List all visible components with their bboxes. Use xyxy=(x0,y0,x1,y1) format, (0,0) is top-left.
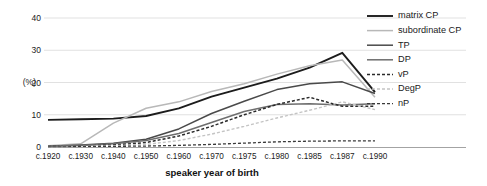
x-tick-label: c.1975 xyxy=(232,152,257,161)
x-tick-label: c.1970 xyxy=(199,152,224,161)
legend-label-np: nP xyxy=(398,98,409,108)
x-tick-label: c.1920 xyxy=(36,152,61,161)
x-tick-label: c.1985 xyxy=(297,152,322,161)
series-line-degp xyxy=(48,102,375,147)
x-tick-label: c.1960 xyxy=(167,152,192,161)
y-axis-unit-label: (%) xyxy=(23,77,36,87)
series-line-subordinate-cp xyxy=(48,60,375,146)
legend-label-dp: DP xyxy=(398,54,411,64)
series-group xyxy=(48,53,375,147)
series-line-dp xyxy=(48,104,375,147)
x-tick-label: c.1980 xyxy=(265,152,290,161)
y-tick-label: 10 xyxy=(32,110,42,120)
legend: matrix CPsubordinate CPTPDPvPDegPnP xyxy=(367,10,461,108)
x-axis-tick-labels: c.1920c.1930c.1940c.1950c.1960c.1970c.19… xyxy=(36,152,388,161)
x-axis-title: speaker year of birth xyxy=(165,167,259,178)
x-tick-label: c.1990 xyxy=(363,152,388,161)
y-tick-label: 30 xyxy=(32,45,42,55)
y-tick-label: 40 xyxy=(32,13,42,23)
legend-label-tp: TP xyxy=(398,40,410,50)
legend-label-degp: DegP xyxy=(398,83,421,93)
legend-label-subordinate-cp: subordinate CP xyxy=(398,25,461,35)
y-tick-label: 0 xyxy=(36,142,41,152)
legend-label-matrix-cp: matrix CP xyxy=(398,10,438,20)
legend-label-vp: vP xyxy=(398,69,409,79)
x-tick-label: c.1940 xyxy=(101,152,126,161)
chart-container: 010203040 (%) c.1920c.1930c.1940c.1950c.… xyxy=(0,0,487,186)
x-tick-label: c.1987 xyxy=(330,152,355,161)
line-chart: 010203040 (%) c.1920c.1930c.1940c.1950c.… xyxy=(0,0,487,186)
x-tick-label: c.1950 xyxy=(134,152,159,161)
x-tick-label: c.1930 xyxy=(68,152,93,161)
